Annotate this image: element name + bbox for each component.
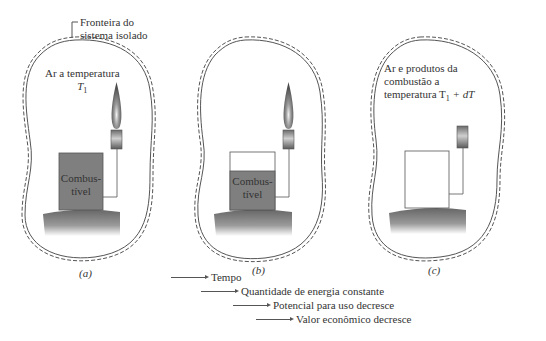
fuel-label-b-line-2: tível (230, 188, 275, 201)
fuel-label-b-line-1: Combus- (230, 175, 275, 188)
arrow-icon (256, 319, 290, 320)
legend-text: Potencial para uso decresce (273, 299, 394, 311)
panel-a (22, 22, 155, 261)
air-label-c-text: temperatura T (384, 88, 446, 100)
ground-a (43, 209, 120, 236)
panel-b (195, 37, 326, 262)
caption-c: (c) (428, 264, 440, 276)
legend-text: Tempo (211, 271, 241, 283)
legend-item-valor: Valor econômico decresce (256, 313, 411, 326)
air-label-c: Ar e produtos da combustão a temperatura… (384, 62, 474, 105)
air-label-c-line-1: Ar e produtos da (384, 62, 474, 75)
arrowhead-icon (205, 275, 209, 279)
air-label-c-line-3: temperatura T1 + dT (384, 88, 474, 105)
ground-c (389, 208, 466, 234)
air-label-a: Ar a temperatura T1 (45, 67, 120, 97)
burner-a (111, 130, 122, 149)
fuel-tank-c (405, 151, 449, 208)
burner-b (283, 130, 294, 149)
boundary-label-line-2: sistema isolado (80, 29, 148, 42)
arrow-icon (233, 305, 267, 306)
fuel-label-a: Combus- tível (59, 172, 103, 198)
fuel-label-b: Combus- tível (230, 175, 275, 201)
legend-item-tempo: Tempo (171, 271, 241, 284)
caption-a: (a) (79, 267, 92, 279)
arrow-icon (171, 277, 205, 278)
boundary-label-line-1: Fronteira do (80, 16, 148, 29)
legend-text: Valor econômico decresce (296, 313, 411, 325)
fuel-label-a-line-1: Combus- (59, 172, 103, 185)
flame-b (284, 82, 294, 129)
ground-b (214, 209, 292, 236)
dt-symbol: + dT (450, 88, 475, 100)
arrowhead-icon (235, 289, 239, 293)
air-label-a-line-1: Ar a temperatura (45, 67, 120, 80)
caption-b: (b) (252, 264, 265, 276)
air-label-c-line-2: combustão a (384, 75, 474, 88)
arrowhead-icon (267, 303, 271, 307)
air-label-a-temp: T1 (45, 80, 120, 97)
temp-subscript: 1 (83, 86, 87, 95)
fuel-label-a-line-2: tível (59, 185, 103, 198)
legend-item-potencial: Potencial para uso decresce (233, 299, 394, 312)
legend-item-energia: Quantidade de energia constante (201, 285, 384, 298)
arrow-icon (201, 291, 235, 292)
boundary-label: Fronteira do sistema isolado (80, 16, 148, 42)
burner-c (457, 126, 468, 148)
arrowhead-icon (290, 317, 294, 321)
legend-text: Quantidade de energia constante (241, 285, 384, 297)
